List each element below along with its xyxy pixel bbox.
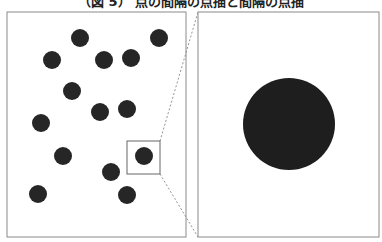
dot <box>150 29 168 47</box>
dot <box>95 51 113 69</box>
dot <box>122 49 140 67</box>
dot <box>118 186 136 204</box>
dot <box>118 100 136 118</box>
dot <box>102 163 120 181</box>
dot <box>135 147 153 165</box>
dot <box>63 82 81 100</box>
dot <box>32 114 50 132</box>
dot <box>71 29 89 47</box>
dot <box>91 103 109 121</box>
dot <box>54 147 72 165</box>
diagram-canvas <box>0 0 382 242</box>
dot <box>43 51 61 69</box>
magnified-dot <box>243 78 335 170</box>
dot <box>29 185 47 203</box>
